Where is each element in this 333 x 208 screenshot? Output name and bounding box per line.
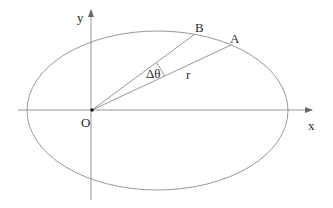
point-b-label: B [195, 21, 204, 34]
y-axis-label: y [77, 11, 84, 24]
origin-point [90, 108, 94, 112]
delta-theta-label: Δθ [146, 67, 161, 80]
radius-line-OA [92, 45, 231, 110]
elliptical-orbit [27, 31, 288, 190]
radius-line-OB [92, 34, 195, 110]
point-a-label: A [230, 32, 239, 45]
orbit-diagram [0, 0, 333, 208]
origin-label: O [81, 116, 90, 129]
x-axis-label: x [308, 119, 315, 132]
radius-r-label: r [186, 68, 190, 81]
